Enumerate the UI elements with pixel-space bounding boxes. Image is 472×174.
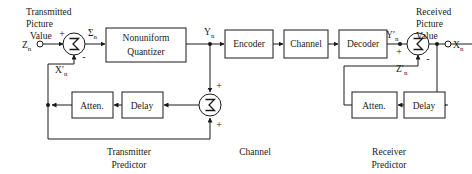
quantizer-label-line2: Quantizer	[127, 47, 165, 57]
output-signal-label: Xn	[453, 40, 464, 52]
output-terminal	[445, 41, 451, 47]
transmitted-caption-line2: Picture	[26, 19, 53, 29]
rx-sum-plus-sign: +	[396, 46, 402, 57]
tx-sum-minus-sign: -	[82, 51, 85, 62]
error-signal-label: Σn	[88, 28, 98, 40]
transmitter-predictor-summing-junction	[199, 94, 221, 116]
tx-atten-label: Atten.	[80, 101, 103, 111]
transmitted-caption-line1: Transmitted	[26, 7, 72, 17]
predicted-signal-label: X′n	[55, 65, 68, 77]
transmitter-predictor-caption-line2: Predictor	[112, 160, 148, 170]
receiver-predictor-caption-line2: Predictor	[372, 160, 408, 170]
input-signal-label: Zn	[22, 40, 32, 52]
decoder-label: Decoder	[347, 39, 380, 49]
rx-atten-label: Atten.	[362, 101, 385, 111]
encoder-label: Encoder	[233, 39, 265, 49]
tx-delay-label: Delay	[131, 101, 154, 111]
rx-delay-label: Delay	[413, 101, 436, 111]
channel-section-caption: Channel	[239, 147, 271, 157]
received-quantized-label: Y′n	[386, 30, 399, 42]
received-caption-line1: Received	[416, 7, 452, 17]
receiver-predictor-caption-line1: Receiver	[372, 147, 407, 157]
tx-pred-plus-bottom-sign: +	[216, 119, 222, 130]
dpcm-block-diagram: Transmitted Picture Value Zn + - Σn X′n …	[0, 0, 472, 174]
tx-pred-plus-top-sign: +	[216, 80, 222, 91]
tx-sum-plus-sign: +	[59, 28, 65, 39]
received-caption-line2: Picture	[416, 19, 443, 29]
quantizer-label-line1: Nonuniform	[123, 33, 171, 43]
rx-sum-minus-sign: -	[426, 53, 429, 64]
transmitter-predictor-caption-line1: Transmitter	[107, 147, 152, 157]
quantized-signal-label: Yn	[204, 27, 215, 39]
received-caption-line3: Value	[416, 31, 438, 41]
channel-label: Channel	[290, 39, 322, 49]
input-terminal	[37, 41, 43, 47]
diagram-canvas: Transmitted Picture Value Zn + - Σn X′n …	[0, 0, 472, 174]
transmitted-caption-line3: Value	[30, 31, 52, 41]
